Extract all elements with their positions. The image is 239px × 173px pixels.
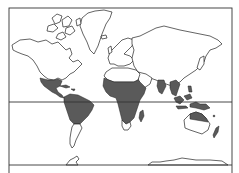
shaded-caribbean (60, 85, 75, 91)
shaded-south-america-north (64, 94, 94, 124)
shaded-india (157, 80, 166, 94)
world-map: mercator-world (0, 0, 239, 173)
land-iceland (101, 35, 107, 39)
land-arctic-islands (47, 14, 81, 40)
land-antarctic-peninsula (66, 156, 79, 165)
shaded-pacific-island (213, 115, 215, 117)
land-north-america (12, 39, 82, 80)
shaded-central-america (40, 78, 64, 98)
land-british-isles (108, 46, 112, 54)
shaded-madagascar (139, 110, 144, 122)
shaded-new-zealand (213, 126, 219, 138)
land-greenland (80, 10, 112, 54)
shaded-philippines (188, 86, 192, 92)
land-south-america-south (70, 124, 82, 148)
land-antarctica (148, 158, 228, 165)
map-canvas (0, 0, 239, 173)
shaded-southeast-asia (170, 80, 180, 96)
